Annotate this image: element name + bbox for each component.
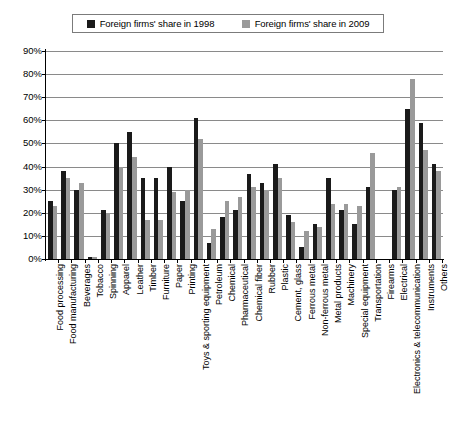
bar-2009	[119, 167, 124, 259]
x-axis-label-cell: Chemical	[218, 264, 231, 394]
x-axis-label-cell: Rubber	[258, 264, 271, 394]
bar-group	[165, 51, 178, 259]
bar-group	[364, 51, 377, 259]
x-axis-label-cell: Paper	[165, 264, 178, 394]
x-axis-label-cell: Spinning	[99, 264, 112, 394]
bar-2009	[158, 220, 163, 259]
bar-group	[337, 51, 350, 259]
x-axis-label-cell: Leather	[125, 264, 138, 394]
y-axis-tick-label: 20%	[2, 208, 42, 218]
x-axis-label-cell: Chemical fiber	[245, 264, 258, 394]
y-axis-tick-label: 10%	[2, 231, 42, 241]
bar-series-container	[46, 51, 443, 259]
bar-group	[152, 51, 165, 259]
x-axis-label-cell: Others	[430, 264, 443, 394]
x-axis-label-cell: Beverages	[72, 264, 85, 394]
bar-group	[72, 51, 85, 259]
bar-2009	[423, 150, 428, 259]
bar-group	[430, 51, 443, 259]
y-axis-tick-label: 40%	[2, 162, 42, 172]
x-axis-label-cell: Machinery	[337, 264, 350, 394]
x-axis-label-cell: Plastic	[271, 264, 284, 394]
bar-group	[99, 51, 112, 259]
bar-group	[112, 51, 125, 259]
bar-group	[417, 51, 430, 259]
bar-2009	[344, 204, 349, 259]
bar-chart: Foreign firms' share in 1998 Foreign fir…	[0, 0, 451, 435]
legend-swatch-1998-icon	[87, 20, 95, 28]
chart-legend: Foreign firms' share in 1998 Foreign fir…	[72, 14, 384, 33]
bar-group	[271, 51, 284, 259]
bar-2009	[304, 231, 309, 259]
bar-group	[377, 51, 390, 259]
x-axis-label-cell: Timber	[139, 264, 152, 394]
bar-2009	[410, 79, 415, 259]
bar-2009	[211, 229, 216, 259]
bar-2009	[370, 153, 375, 259]
bar-group	[218, 51, 231, 259]
bar-group	[125, 51, 138, 259]
x-axis-label-cell: Toys & sporting equipment	[192, 264, 205, 394]
x-axis-label-cell: Printing	[178, 264, 191, 394]
bar-2009	[172, 192, 177, 259]
y-axis-tick-label: 90%	[2, 46, 42, 56]
y-axis-tick-label: 50%	[2, 138, 42, 148]
x-axis-label-cell: Apparel	[112, 264, 125, 394]
bar-group	[297, 51, 310, 259]
x-axis-labels: Food processingFood manufacturingBeverag…	[46, 264, 443, 394]
x-axis-tick-mark	[442, 260, 443, 263]
x-axis-label-cell: Electrical	[390, 264, 403, 394]
bar-group	[178, 51, 191, 259]
legend-swatch-2009-icon	[242, 20, 250, 28]
x-axis-label-cell: Food processing	[46, 264, 59, 394]
bar-group	[192, 51, 205, 259]
bar-group	[86, 51, 99, 259]
legend-item-2009: Foreign firms' share in 2009	[242, 19, 370, 29]
y-axis-tick-label: 70%	[2, 92, 42, 102]
x-axis-label-cell: Non-ferrous metal	[311, 264, 324, 394]
x-axis-label-cell: Electronics & telecommunication	[403, 264, 416, 394]
x-axis-label-cell: Cement, glass	[284, 264, 297, 394]
bar-2009	[132, 157, 137, 259]
bar-2009	[198, 139, 203, 259]
plot-area	[46, 51, 443, 259]
bar-2009	[278, 178, 283, 259]
legend-item-1998: Foreign firms' share in 1998	[87, 19, 215, 29]
bar-group	[59, 51, 72, 259]
bar-2009	[79, 183, 84, 259]
y-axis-tick-label: 60%	[2, 115, 42, 125]
bar-group	[205, 51, 218, 259]
bar-group	[390, 51, 403, 259]
y-axis-tick-label: 80%	[2, 69, 42, 79]
y-axis-tick-label: 0%	[2, 254, 42, 264]
bar-2009	[185, 190, 190, 259]
bar-group	[350, 51, 363, 259]
y-axis-labels: 90%80%70%60%50%40%30%20%10%0%	[0, 51, 42, 259]
bar-2009	[264, 190, 269, 259]
x-axis-category-label: Others	[440, 264, 449, 291]
bar-2009	[251, 187, 256, 259]
x-axis-label-cell: Transportation	[364, 264, 377, 394]
x-axis-label-cell: Firearms	[377, 264, 390, 394]
x-axis-label-cell: Metal products	[324, 264, 337, 394]
bar-group	[284, 51, 297, 259]
bar-2009	[106, 213, 111, 259]
bar-group	[46, 51, 59, 259]
x-axis-label-cell: Tobacco	[86, 264, 99, 394]
bar-2009	[331, 204, 336, 259]
legend-label-2009: Foreign firms' share in 2009	[255, 19, 370, 29]
bar-group	[245, 51, 258, 259]
bar-2009	[238, 197, 243, 259]
bar-group	[139, 51, 152, 259]
bar-2009	[397, 187, 402, 259]
x-axis-label-cell: Instruments	[417, 264, 430, 394]
y-axis-tick-label: 30%	[2, 185, 42, 195]
bar-2009	[225, 201, 230, 259]
bar-group	[403, 51, 416, 259]
x-axis-label-cell: Petroleum	[205, 264, 218, 394]
x-axis-label-cell: Special equipment	[350, 264, 363, 394]
bar-2009	[145, 220, 150, 259]
bar-2009	[357, 206, 362, 259]
bar-2009	[66, 178, 71, 259]
bar-group	[311, 51, 324, 259]
